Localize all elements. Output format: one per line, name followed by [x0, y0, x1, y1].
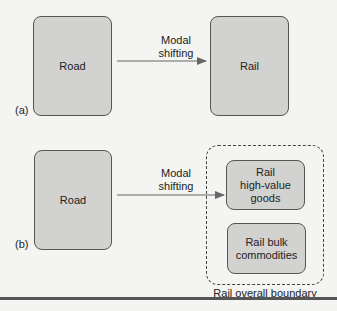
- road-box-b: Road: [34, 150, 112, 250]
- modal-shifting-label-a: Modal shifting: [136, 34, 216, 60]
- modal-shifting-label-b: Modal shifting: [136, 167, 216, 193]
- rail-box-a: Rail: [210, 16, 289, 116]
- panel-a-label: (a): [15, 104, 28, 117]
- modal-line: Modal: [136, 34, 216, 47]
- rail-bulk-box: Rail bulk commodities: [227, 223, 306, 274]
- panel-b-label: (b): [15, 238, 28, 251]
- road-box-a: Road: [33, 16, 112, 116]
- rail-high-line1: Rail: [240, 166, 291, 179]
- road-label-b: Road: [60, 194, 86, 207]
- rail-high-value-box: Rail high-value goods: [226, 160, 305, 210]
- rail-high-line3: goods: [240, 192, 291, 205]
- rail-bulk-line1: Rail bulk: [236, 236, 298, 249]
- rail-bulk-line2: commodities: [236, 249, 298, 262]
- road-label-a: Road: [59, 60, 85, 73]
- bottom-rule: [0, 297, 337, 300]
- rail-label-a: Rail: [240, 60, 259, 73]
- shifting-line: shifting: [136, 47, 216, 60]
- shifting-line: shifting: [136, 180, 216, 193]
- modal-line: Modal: [136, 167, 216, 180]
- rail-high-line2: high-value: [240, 179, 291, 192]
